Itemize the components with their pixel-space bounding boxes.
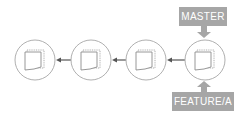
- commit-node[interactable]: [15, 40, 55, 80]
- feature-branch-label[interactable]: FEATURE/A: [172, 92, 234, 111]
- commit-node-head[interactable]: [185, 40, 225, 80]
- document-icon: [195, 50, 214, 70]
- document-icon: [81, 50, 100, 70]
- commit-node[interactable]: [126, 40, 166, 80]
- commit-arrow: [167, 58, 185, 63]
- master-pointer-arrow: [197, 26, 211, 38]
- feature-pointer-arrow: [197, 81, 211, 92]
- master-branch-label[interactable]: MASTER: [179, 7, 227, 26]
- document-icon: [136, 50, 155, 70]
- commit-node[interactable]: [71, 40, 111, 80]
- document-icon: [25, 50, 44, 70]
